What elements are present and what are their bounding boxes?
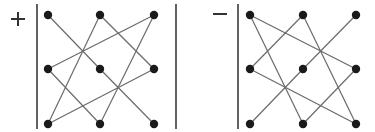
edge-line	[303, 15, 356, 124]
node-dot	[299, 65, 307, 73]
node-dot	[96, 120, 104, 128]
node-dot	[44, 11, 52, 19]
node-dot	[96, 65, 104, 73]
node-dot	[44, 65, 52, 73]
node-dot	[246, 65, 254, 73]
edge-line	[250, 69, 356, 124]
node-dot	[44, 120, 52, 128]
node-dot	[352, 11, 360, 19]
edge-line	[100, 15, 154, 69]
edge-line	[250, 15, 356, 69]
edge-line	[250, 69, 303, 124]
edge-line	[250, 15, 303, 124]
node-dot	[96, 11, 104, 19]
edge-line	[303, 15, 356, 69]
edge-line	[48, 69, 154, 124]
edge-line	[48, 15, 100, 69]
node-dot	[150, 65, 158, 73]
node-dot	[150, 120, 158, 128]
edge-line	[48, 15, 100, 124]
edge-line	[250, 15, 303, 69]
node-dot	[299, 120, 307, 128]
edge-line	[303, 69, 356, 124]
edge-line	[48, 15, 154, 69]
edge-line	[48, 69, 100, 124]
edge-line	[100, 69, 154, 124]
node-dot	[150, 11, 158, 19]
edge-line	[100, 15, 154, 124]
node-dot	[352, 65, 360, 73]
node-dot	[246, 11, 254, 19]
node-dot	[246, 120, 254, 128]
node-dot	[299, 11, 307, 19]
panel-plus	[11, 4, 176, 129]
panel-minus	[213, 4, 360, 129]
node-dot	[352, 120, 360, 128]
permutation-diagram	[0, 0, 375, 132]
